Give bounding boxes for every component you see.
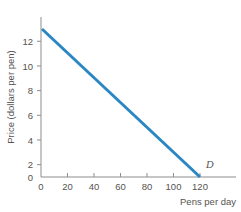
y-tick-labels: 0 2 4 6 8 10 12 (22, 36, 33, 183)
demand-curve-line (42, 29, 200, 177)
y-tick-label: 10 (22, 61, 33, 72)
y-tick-label: 12 (22, 36, 33, 47)
y-axis-title: Price (dollars per pen) (5, 50, 16, 143)
demand-curve-label: D (205, 159, 214, 170)
x-tick-label: 80 (142, 181, 153, 192)
demand-curve-chart: 0 2 4 6 8 10 12 0 20 40 60 80 100 120 D … (0, 0, 241, 212)
x-tick-labels: 0 20 40 60 80 100 120 (38, 181, 208, 192)
x-tick-label: 20 (62, 181, 73, 192)
x-axis-title: Pens per day (180, 196, 236, 207)
x-axis-ticks (68, 173, 201, 177)
x-tick-label: 40 (89, 181, 100, 192)
y-tick-label: 4 (28, 135, 33, 146)
x-tick-label: 100 (166, 181, 182, 192)
y-tick-label: 6 (28, 110, 33, 121)
y-tick-label: 0 (28, 172, 33, 183)
x-tick-label: 0 (38, 181, 43, 192)
y-axis-ticks (37, 41, 41, 164)
x-tick-label: 120 (192, 181, 208, 192)
chart-plot-area: 0 2 4 6 8 10 12 0 20 40 60 80 100 120 D … (0, 0, 241, 212)
y-tick-label: 2 (28, 159, 33, 170)
y-tick-label: 8 (28, 85, 33, 96)
x-tick-label: 60 (115, 181, 126, 192)
